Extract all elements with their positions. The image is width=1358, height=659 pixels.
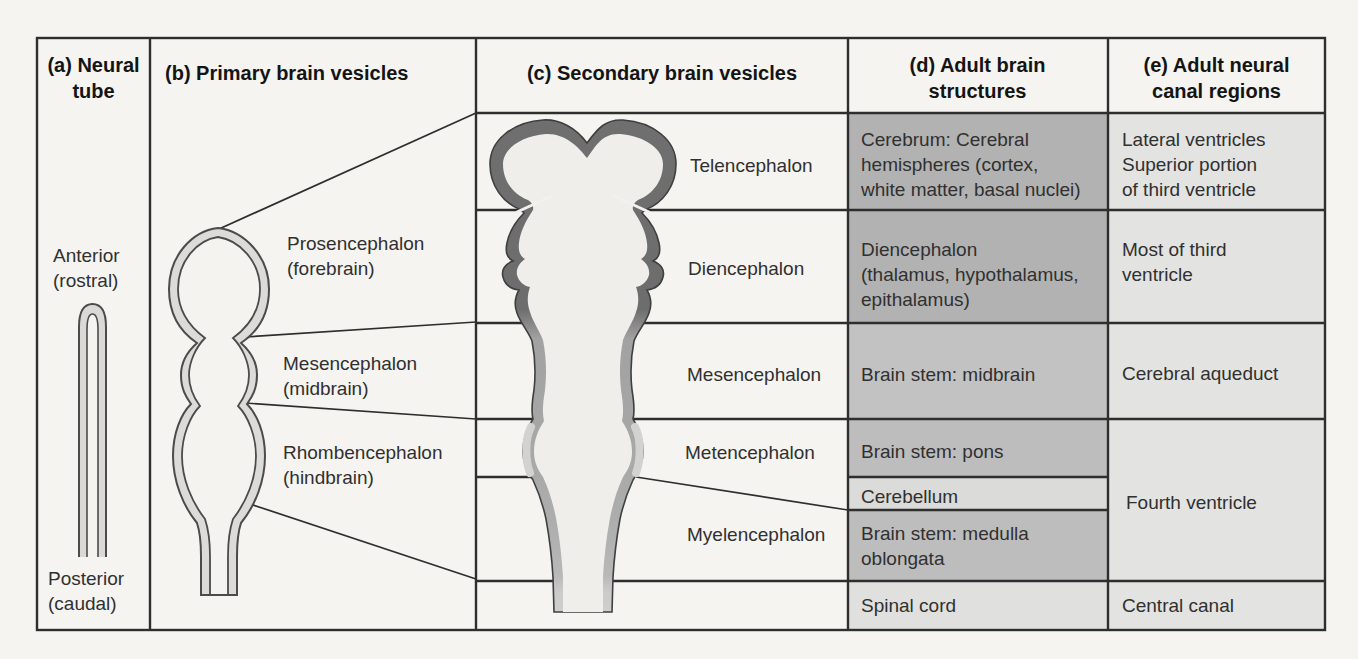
cell-central-canal: Central canal xyxy=(1122,593,1322,618)
label-telencephalon: Telencephalon xyxy=(690,153,813,178)
cell-cerebrum: Cerebrum: Cerebral hemispheres (cortex, … xyxy=(861,127,1105,202)
neural-tube-drawing xyxy=(79,304,106,557)
header-primary-brain-vesicles: (b) Primary brain vesicles xyxy=(165,60,455,86)
label-mesencephalon-secondary: Mesencephalon xyxy=(687,362,821,387)
cell-lateral-ventricles: Lateral ventricles Superior portion of t… xyxy=(1122,127,1322,202)
cell-fourth-ventricle: Fourth ventricle xyxy=(1126,490,1326,515)
label-metencephalon: Metencephalon xyxy=(685,440,815,465)
cell-spinal-cord: Spinal cord xyxy=(861,593,1105,618)
header-adult-brain-structures: (d) Adult brain structures xyxy=(848,52,1107,104)
label-rhombencephalon: Rhombencephalon (hindbrain) xyxy=(283,440,443,490)
cell-cerebellum: Cerebellum xyxy=(861,484,1105,509)
label-myelencephalon: Myelencephalon xyxy=(687,522,825,547)
cell-cerebral-aqueduct: Cerebral aqueduct xyxy=(1122,361,1322,386)
cell-brainstem-midbrain: Brain stem: midbrain xyxy=(861,362,1105,387)
cell-brainstem-medulla: Brain stem: medulla oblongata xyxy=(861,521,1105,571)
figure-brain-development: (a) Neural tube (b) Primary brain vesicl… xyxy=(0,0,1358,659)
label-anterior-rostral: Anterior (rostral) xyxy=(53,243,120,293)
secondary-vesicles-drawing xyxy=(490,120,676,612)
cell-diencephalon: Diencephalon (thalamus, hypothalamus, ep… xyxy=(861,237,1105,312)
cell-third-ventricle: Most of third ventricle xyxy=(1122,237,1322,287)
header-adult-neural-canal-regions: (e) Adult neural canal regions xyxy=(1108,52,1325,104)
label-mesencephalon-primary: Mesencephalon (midbrain) xyxy=(283,351,417,401)
label-posterior-caudal: Posterior (caudal) xyxy=(48,566,124,616)
header-secondary-brain-vesicles: (c) Secondary brain vesicles xyxy=(476,60,848,86)
cell-brainstem-pons: Brain stem: pons xyxy=(861,439,1105,464)
label-prosencephalon: Prosencephalon (forebrain) xyxy=(287,231,424,281)
primary-vesicles-drawing xyxy=(169,228,269,595)
label-diencephalon: Diencephalon xyxy=(688,256,804,281)
header-neural-tube: (a) Neural tube xyxy=(37,52,150,104)
